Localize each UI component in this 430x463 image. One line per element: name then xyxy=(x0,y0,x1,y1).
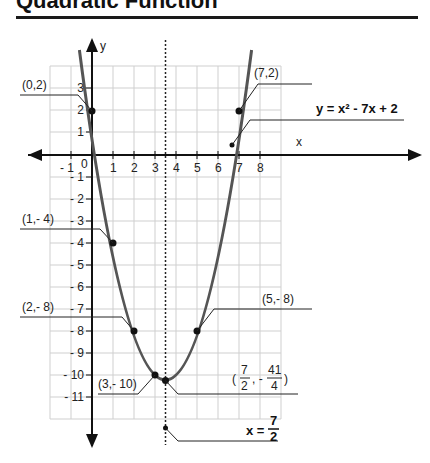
svg-text:): ) xyxy=(284,372,288,386)
equation-label: y = x² - 7x + 2 xyxy=(316,101,398,116)
svg-text:7: 7 xyxy=(236,161,243,175)
quadratic-graph: - 1 0 1 2 3 4 5 6 7 8 3 2 1 - 1 - 2 - 3 … xyxy=(0,0,430,463)
y-axis-label: y xyxy=(100,39,106,53)
svg-text:2: 2 xyxy=(270,429,277,444)
label-point-1-m4: (1,- 4) xyxy=(22,212,54,226)
svg-text:- 7: - 7 xyxy=(70,302,84,316)
svg-text:- 8: - 8 xyxy=(70,324,84,338)
svg-text:x =: x = xyxy=(246,423,265,438)
svg-text:2: 2 xyxy=(241,379,248,393)
label-point-3-m10: (3,- 10) xyxy=(98,377,137,391)
svg-text:, -: , - xyxy=(252,372,263,386)
label-point-2-m8: (2,- 8) xyxy=(22,300,54,314)
svg-text:- 9: - 9 xyxy=(70,346,84,360)
svg-text:- 2: - 2 xyxy=(70,192,84,206)
svg-text:- 5: - 5 xyxy=(70,258,84,272)
svg-text:6: 6 xyxy=(215,161,222,175)
svg-text:4: 4 xyxy=(271,379,278,393)
svg-text:- 4: - 4 xyxy=(70,236,84,250)
svg-text:1: 1 xyxy=(110,161,117,175)
svg-text:- 10: - 10 xyxy=(63,368,84,382)
svg-text:- 3: - 3 xyxy=(70,214,84,228)
svg-text:0: 0 xyxy=(81,157,88,171)
svg-text:- 1: - 1 xyxy=(70,170,84,184)
svg-text:1: 1 xyxy=(77,125,84,139)
label-axis-of-symmetry: x = 7 2 xyxy=(246,413,279,444)
svg-text:(: ( xyxy=(232,372,236,386)
svg-text:4: 4 xyxy=(173,161,180,175)
svg-text:- 6: - 6 xyxy=(70,280,84,294)
svg-text:41: 41 xyxy=(268,363,282,377)
svg-text:5: 5 xyxy=(194,161,201,175)
svg-text:7: 7 xyxy=(270,413,277,428)
svg-text:2: 2 xyxy=(131,161,138,175)
svg-text:8: 8 xyxy=(257,161,264,175)
label-point-0-2: (0,2) xyxy=(22,78,47,92)
svg-text:2: 2 xyxy=(77,103,84,117)
x-axis-label: x xyxy=(296,135,302,149)
label-point-7-2: (7,2) xyxy=(254,66,279,80)
svg-text:7: 7 xyxy=(241,363,248,377)
svg-text:- 11: - 11 xyxy=(64,390,84,404)
label-point-5-m8: (5,- 8) xyxy=(262,292,294,306)
svg-text:3: 3 xyxy=(152,161,159,175)
